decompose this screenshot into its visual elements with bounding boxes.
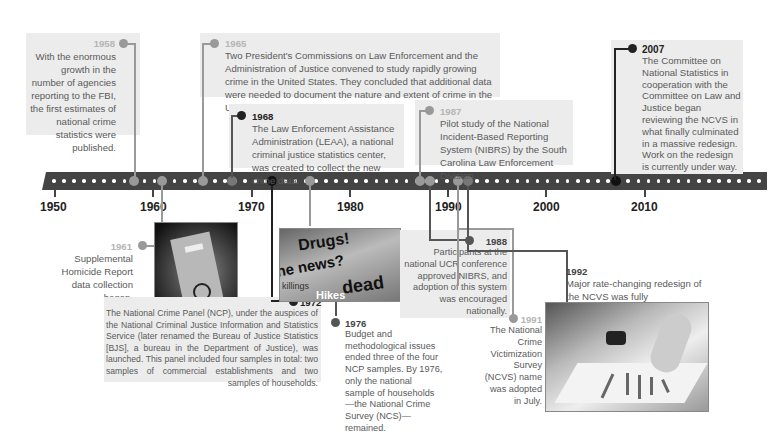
headline-news: he news? <box>279 251 345 280</box>
connector-1992-h <box>467 250 567 252</box>
chart-paper <box>554 363 707 403</box>
year-pip <box>435 179 439 183</box>
year-pip <box>606 179 610 183</box>
year-pip <box>102 179 106 183</box>
decade-label-1950: 1950 <box>40 200 67 214</box>
year-pip <box>717 179 721 183</box>
year-pip <box>657 179 661 183</box>
connector-1972 <box>271 186 273 302</box>
year-pip <box>576 179 580 183</box>
connector-1991-h <box>457 228 513 230</box>
connector-1991 <box>457 186 459 286</box>
decade-label-2000: 2000 <box>533 200 560 214</box>
hands-bar-chart-photo <box>545 302 709 412</box>
tick-1980 <box>349 190 351 197</box>
year-pip <box>626 179 630 183</box>
year-pip <box>727 179 731 183</box>
chart-bar-4 <box>650 377 653 395</box>
headline-hikes: Hikes <box>316 289 345 301</box>
year-pip <box>92 179 96 183</box>
bar-dot-2007[interactable] <box>611 176 621 186</box>
year-pip <box>72 179 76 183</box>
year-pip <box>112 179 116 183</box>
year-pip <box>747 179 751 183</box>
marker-1958 <box>119 39 128 48</box>
event-text-1976: Budget and methodological issues ended t… <box>345 329 443 434</box>
watch-shape <box>606 331 626 345</box>
decade-label-2010: 2010 <box>631 200 658 214</box>
year-pip <box>52 179 56 183</box>
year-pip <box>707 179 711 183</box>
event-text-1991: The National Crime Victimization Survey … <box>482 325 542 408</box>
headline-dead: dead <box>341 272 386 299</box>
chart-bar-2 <box>626 373 629 395</box>
newspaper-headlines-photo: Drugs! he news? killings dead Hikes <box>279 228 401 302</box>
year-pip <box>757 179 761 183</box>
year-pip <box>173 179 177 183</box>
marker-1961 <box>138 241 147 250</box>
year-pip <box>697 179 701 183</box>
year-pip <box>153 179 157 183</box>
year-pip <box>596 179 600 183</box>
year-pip <box>737 179 741 183</box>
decade-label-1970: 1970 <box>238 200 265 214</box>
year-pip <box>405 179 409 183</box>
connector-2007 <box>614 48 616 180</box>
connector-1991-v <box>512 228 514 316</box>
connector-1961 <box>161 186 163 222</box>
year-pip <box>637 179 641 183</box>
year-pip <box>667 179 671 183</box>
event-text-1987: Pilot study of the National Incident-Bas… <box>440 117 570 182</box>
year-pip <box>123 179 127 183</box>
event-text-1972: The National Crime Panel (NCP), under th… <box>106 308 318 389</box>
year-pip <box>62 179 66 183</box>
marker-1987 <box>425 106 434 115</box>
event-text-1958: With the enormous growth in the number o… <box>30 50 116 154</box>
connector-1988-h <box>429 239 467 241</box>
year-pip <box>586 179 590 183</box>
marker-1976 <box>331 318 340 327</box>
tick-1950 <box>54 190 56 197</box>
year-pip <box>213 179 217 183</box>
tick-1960 <box>152 190 154 197</box>
event-text-1988: Participants at the national UCR confere… <box>402 247 507 318</box>
bar-dot-1961[interactable] <box>157 176 167 186</box>
marker-2007 <box>628 44 637 53</box>
year-pip <box>687 179 691 183</box>
marker-1965 <box>210 39 219 48</box>
connector-1958-h <box>127 43 136 45</box>
tick-2010 <box>644 190 646 197</box>
connector-1992 <box>467 186 469 252</box>
year-pip <box>82 179 86 183</box>
chart-bar-3 <box>638 375 641 399</box>
event-text-1968: The Law Enforcement Assistance Administr… <box>252 122 402 187</box>
year-pip <box>143 179 147 183</box>
year-pip <box>183 179 187 183</box>
connector-1988 <box>429 186 431 240</box>
tick-1970 <box>251 190 253 197</box>
event-year-1958: 1958 <box>60 37 115 50</box>
headline-killings: killings <box>282 281 309 291</box>
bar-dot-1988[interactable] <box>425 176 435 186</box>
year-pip <box>647 179 651 183</box>
marker-1968 <box>237 111 246 120</box>
tick-1990 <box>447 190 449 197</box>
year-pip <box>243 179 247 183</box>
connector-1976 <box>335 302 337 316</box>
tick-2000 <box>545 190 547 197</box>
connector-1976-top <box>309 186 311 226</box>
connector-1958 <box>134 43 136 178</box>
year-pip <box>677 179 681 183</box>
event-text-2007: The Committee on National Statistics in … <box>642 55 742 173</box>
connector-1968 <box>231 115 233 178</box>
headline-drugs: Drugs! <box>297 229 351 254</box>
connector-1987 <box>419 110 421 178</box>
connector-1965 <box>202 43 204 178</box>
decade-label-1980: 1980 <box>337 200 364 214</box>
year-pip <box>193 179 197 183</box>
